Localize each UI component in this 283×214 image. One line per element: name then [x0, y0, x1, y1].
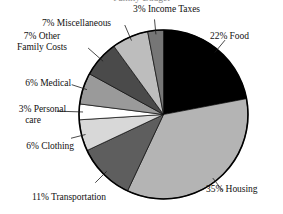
slice-label-other-family-costs-line2: Family Costs — [17, 42, 67, 52]
pie-chart-figure: Family Budget 3% Income Taxes 22% Food 3… — [0, 0, 283, 214]
slice-label-miscellaneous: 7% Miscellaneous — [0, 18, 111, 29]
slice-label-other-family-costs: 7% Other Family Costs — [0, 31, 84, 53]
slice-label-medical: 6% Medical — [0, 78, 71, 89]
slice-label-housing: 35% Housing — [206, 184, 257, 195]
slice-label-transportation: 11% Transportation — [32, 192, 106, 203]
slice-label-personal-care-line1: 3% Personal — [19, 104, 66, 114]
slice-label-personal-care-line2: care — [0, 115, 66, 126]
slice-label-food: 22% Food — [210, 31, 249, 42]
slice-label-income-taxes: 3% Income Taxes — [133, 4, 200, 15]
slice-label-personal-care: 3% Personal care — [0, 104, 66, 126]
slice-label-other-family-costs-line1: 7% Other — [24, 31, 60, 41]
slice-label-clothing: 6% Clothing — [0, 141, 74, 152]
leader-line-other-family-costs — [88, 48, 103, 61]
leader-line-transportation — [95, 171, 106, 182]
